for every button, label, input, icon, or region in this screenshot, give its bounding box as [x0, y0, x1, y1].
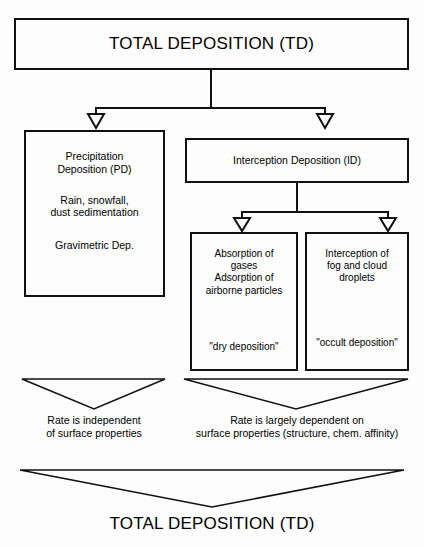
dry-deposition-detail: Absorption of gases Adsorption of airbor…	[206, 248, 283, 297]
arrowhead-to-precipitation	[88, 114, 104, 128]
caption-right-rate: Rate is largely dependent on surface pro…	[180, 414, 414, 441]
precipitation-deposition-detail: Rain, snowfall, dust sedimentation	[50, 194, 138, 220]
interception-deposition-heading: Interception Deposition (ID)	[233, 154, 361, 167]
total-deposition-top-box: TOTAL DEPOSITION (TD)	[14, 18, 409, 70]
funnel-left	[22, 379, 165, 409]
deposition-flow-diagram: TOTAL DEPOSITION (TD) Precipitation Depo…	[0, 0, 424, 547]
arrowhead-to-occult-deposition	[380, 218, 396, 231]
dry-deposition-quote: "dry deposition"	[209, 341, 278, 353]
interception-deposition-box: Interception Deposition (ID)	[185, 138, 409, 183]
precipitation-deposition-heading: Precipitation Deposition (PD)	[57, 150, 131, 176]
precipitation-deposition-box: Precipitation Deposition (PD) Rain, snow…	[24, 130, 165, 297]
occult-deposition-detail: Interception of fog and cloud droplets	[325, 248, 388, 285]
precipitation-deposition-note: Gravimetric Dep.	[55, 239, 134, 252]
caption-left-rate: Rate is independent of surface propertie…	[18, 414, 170, 441]
total-deposition-bottom-label: TOTAL DEPOSITION (TD)	[0, 514, 424, 534]
occult-deposition-quote: "occult deposition"	[316, 337, 398, 349]
funnel-bottom	[20, 470, 404, 507]
funnel-right	[184, 379, 408, 409]
occult-deposition-box: Interception of fog and cloud droplets "…	[305, 232, 409, 371]
dry-deposition-box: Absorption of gases Adsorption of airbor…	[190, 232, 298, 371]
arrowhead-to-interception	[317, 114, 333, 128]
total-deposition-top-label: TOTAL DEPOSITION (TD)	[109, 34, 314, 54]
arrowhead-to-dry-deposition	[234, 218, 250, 231]
